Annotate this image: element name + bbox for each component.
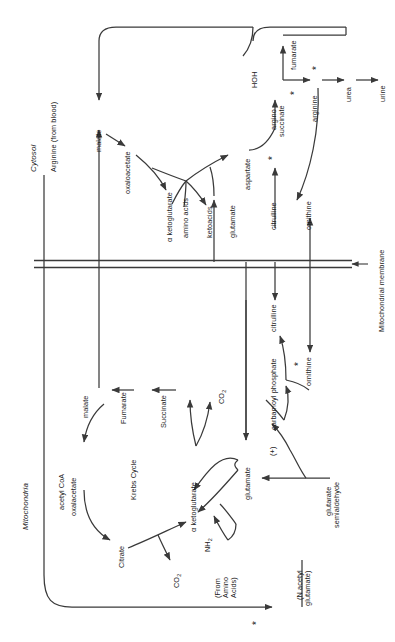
label-aspartate: aspartate [244,159,252,190]
enzyme-star-ornithine-transcarbamylase: * [294,362,304,366]
label-co2-krebs-b: CO2 [173,574,184,588]
compartment-label-mitochondria: Mitochondria [22,483,30,530]
label-carbamoyl-phosphate: carbamoyl phosphate [270,358,278,430]
label-ornithine-cytosol: ornithine [305,201,313,230]
membrane-label: Mitochondrial membrane [378,249,386,332]
label-co2-krebs-a: CO2 [218,390,229,404]
label-alpha-ketoglutarate-cytosol: α ketoglutarate [166,192,174,242]
enzyme-star-argininosuccinate-lyase: * [290,91,300,95]
label-urine: urine [379,85,387,102]
label-glutamate-mito: glutamate [244,467,252,500]
label-ornithine-mito: ornithine [305,357,313,386]
label-alpha-ketoglutarate-mito: α ketoglutarate [190,482,198,532]
label-malate-cytosol: malate [95,129,103,152]
label-fumarate-cytosol: fumarate [290,40,298,70]
label-succinate-mito: Succinate [160,395,168,428]
label-n-acetyl-glutamate-line2: glutamate) [304,571,312,606]
label-oxaloacetate-cytosol: oxaloacetate [124,151,132,194]
label-krebs-cycle: Krebs Cycle [130,460,138,500]
label-citrulline-cytosol: citrulline [270,202,278,230]
label-ketoacids: ketoacids [206,206,214,238]
label-acetyl-coa: acetyl CoA [58,474,66,510]
label-malate-mito: malate [82,395,90,418]
label-citrate: Citrate [118,546,126,568]
label-glutarate-semialdehyde-line2: semialdehyde [333,482,341,528]
label-hoh: HOH [251,71,259,88]
label-fumarate-mito: Fumarate [120,392,128,424]
label-citrulline-mito: citrulline [270,304,278,332]
diagram-canvas: Cytosol Mitochondria Mitochondrial membr… [0,0,395,642]
enzyme-star-n-acetylglutamate-synthase: * [252,621,262,625]
label-arginine: arginine [311,95,319,122]
pathway-arrows [0,0,395,642]
label-nh2: NH2 [204,538,215,552]
label-from-amino-acids-line3: Acids) [230,577,238,598]
label-plus-sign: (+) [269,447,277,456]
label-glutamate-cytosol: glutamate [229,205,237,238]
label-amino-acids: amino acids [182,198,190,238]
label-argino-succinate-line2: succinate [278,105,286,137]
enzyme-star-arginase: * [312,66,322,70]
label-oxalacetate-mito: oxalacetate [70,478,78,516]
enzyme-star-argininosuccinate-synthetase: * [268,156,278,160]
label-arginine-from-blood: Arginine (from blood) [50,102,58,172]
compartment-label-cytosol: Cytosol [30,145,38,172]
label-urea: urea [345,87,353,102]
